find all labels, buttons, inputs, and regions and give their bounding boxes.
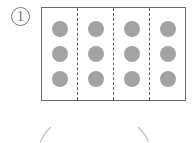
dot-counter — [160, 46, 176, 62]
item-number-label: 1 — [12, 8, 29, 25]
brace-right-stroke-icon — [137, 127, 150, 142]
worksheet-page: 1 — [0, 0, 195, 143]
dot-counter — [160, 21, 176, 37]
dot-counter — [160, 71, 176, 87]
dot-counter — [124, 71, 140, 87]
dot-counter — [124, 46, 140, 62]
dot-counter — [52, 21, 68, 37]
dot-counter — [88, 71, 104, 87]
partition-group-3 — [113, 8, 149, 100]
dot-counter — [88, 46, 104, 62]
partitioned-rectangle — [41, 7, 186, 101]
dot-counter — [52, 71, 68, 87]
partition-group-1 — [42, 8, 77, 100]
dot-counter — [52, 46, 68, 62]
partition-container — [42, 8, 185, 100]
dot-counter — [88, 21, 104, 37]
brace-left-stroke-icon — [39, 127, 52, 142]
item-number-badge: 1 — [11, 7, 30, 26]
dot-counter — [124, 21, 140, 37]
partition-group-2 — [77, 8, 113, 100]
partition-group-4 — [149, 8, 185, 100]
